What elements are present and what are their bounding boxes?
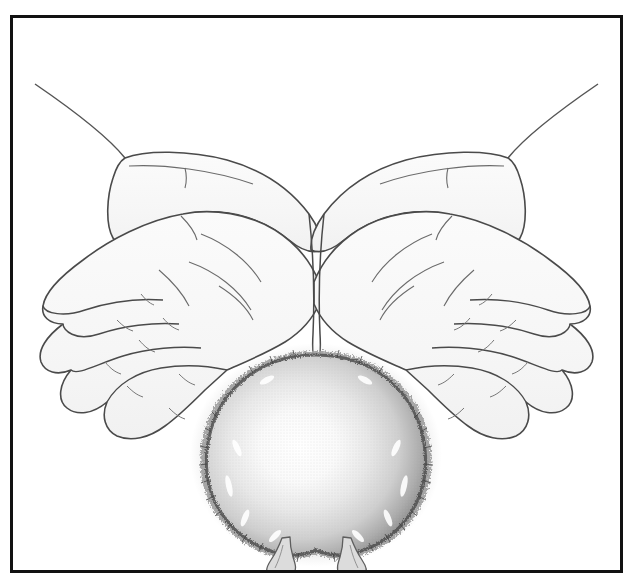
illustration-frame: Cupped hands holding a small round furry… [10, 15, 623, 573]
left-wrist-line [35, 84, 125, 158]
hands-holding-chick-illustration [13, 18, 620, 570]
chick [190, 338, 443, 570]
right-wrist-line [508, 84, 598, 158]
illustration-page: Cupped hands holding a small round furry… [0, 0, 633, 582]
